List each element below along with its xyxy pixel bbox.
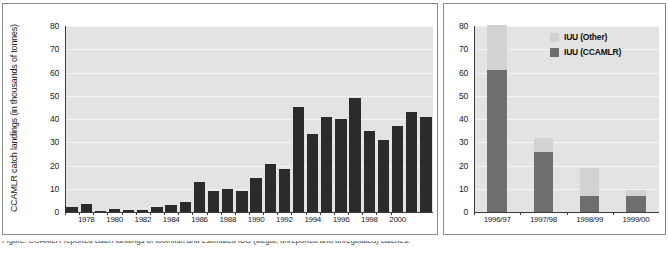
x-axis-tick-mark — [178, 212, 179, 215]
bar-segment-iuu-ccamlr — [580, 196, 599, 212]
gridline — [65, 26, 433, 27]
bar — [236, 191, 247, 212]
x-axis-tick-mark — [391, 212, 392, 215]
bar-segment-iuu-other — [487, 25, 506, 70]
y-axis-tick-label: 10 — [459, 184, 468, 194]
x-axis-tick-label: 1999/00 — [622, 215, 649, 224]
x-axis-tick-mark — [221, 212, 222, 215]
gridline — [65, 96, 433, 97]
bar-segment-iuu-other — [626, 190, 645, 196]
y-axis-tick-label: 20 — [459, 161, 468, 171]
x-axis-tick-label: 1996/97 — [484, 215, 511, 224]
y-axis-tick-label: 50 — [459, 91, 468, 101]
y-axis-line — [65, 26, 66, 212]
x-axis-tick-mark — [613, 212, 614, 215]
bar — [279, 169, 290, 212]
legend-item: IUU (Other) — [550, 32, 621, 42]
x-axis-tick-label: 1992 — [276, 215, 293, 224]
legend-swatch-icon — [550, 33, 559, 42]
y-axis-tick-label: 0 — [54, 207, 59, 217]
bar — [420, 117, 431, 212]
y-axis-tick-label: 20 — [50, 161, 59, 171]
x-axis-tick-label: 1996 — [333, 215, 350, 224]
y-axis-tick-label: 80 — [50, 21, 59, 31]
y-axis-tick-label: 50 — [50, 91, 59, 101]
x-axis-tick-label: 2000 — [389, 215, 406, 224]
bar — [165, 205, 176, 212]
bar — [81, 204, 92, 212]
gridline — [65, 119, 433, 120]
x-axis-tick-mark — [164, 212, 165, 215]
x-axis-tick-mark — [93, 212, 94, 215]
x-axis-tick-mark — [306, 212, 307, 215]
x-axis-tick-mark — [207, 212, 208, 215]
y-axis-tick-label: 60 — [459, 68, 468, 78]
bar — [406, 112, 417, 212]
bar-segment-iuu-other — [580, 168, 599, 196]
legend-item-label: IUU (Other) — [564, 32, 607, 42]
bar-segment-iuu-ccamlr — [626, 196, 645, 212]
left-chart-panel: CCAMLR catch landings (in thousands of t… — [2, 3, 438, 235]
x-axis-tick-mark — [65, 212, 66, 215]
x-axis-tick-label: 1988 — [219, 215, 236, 224]
x-axis-tick-mark — [192, 212, 193, 215]
bar — [293, 107, 304, 212]
x-axis-tick-mark — [136, 212, 137, 215]
y-axis-line — [474, 26, 475, 212]
x-axis-tick-mark — [291, 212, 292, 215]
x-axis-tick-label: 1998/99 — [576, 215, 603, 224]
stacked-bar — [580, 168, 599, 212]
y-axis-tick-label: 10 — [50, 184, 59, 194]
stacked-bar — [487, 25, 506, 212]
x-axis-tick-label: 1986 — [191, 215, 208, 224]
left-plot-area — [65, 26, 433, 212]
x-axis-tick-mark — [277, 212, 278, 215]
stacked-bar — [534, 138, 553, 212]
bar — [180, 202, 191, 212]
figure-caption-text: Figure: CCAMLR reported catch landings o… — [2, 241, 666, 245]
x-axis-tick-label: 1998 — [361, 215, 378, 224]
bar — [321, 117, 332, 212]
bar-segment-iuu-ccamlr — [534, 152, 553, 212]
figure-caption: Figure: CCAMLR reported catch landings o… — [2, 241, 666, 256]
y-axis-tick-label: 70 — [459, 44, 468, 54]
right-chart-panel: 01020304050607080 1996/971997/981998/991… — [443, 3, 666, 235]
x-axis-tick-mark — [79, 212, 80, 215]
bar — [250, 178, 261, 212]
x-axis-tick-mark — [249, 212, 250, 215]
x-axis-tick-label: 1982 — [135, 215, 152, 224]
x-axis-tick-label: 1978 — [78, 215, 95, 224]
figure-container: CCAMLR catch landings (in thousands of t… — [0, 0, 668, 256]
x-axis-tick-mark — [334, 212, 335, 215]
x-axis-tick-label: 1984 — [163, 215, 180, 224]
bar — [265, 164, 276, 212]
bar — [208, 191, 219, 212]
x-axis-tick-mark — [376, 212, 377, 215]
stacked-bar — [626, 190, 645, 212]
y-axis-tick-label: 0 — [463, 207, 468, 217]
gridline — [65, 73, 433, 74]
bar-segment-iuu-ccamlr — [487, 70, 506, 212]
bar — [378, 140, 389, 212]
x-axis-tick-mark — [263, 212, 264, 215]
y-axis-tick-label: 30 — [459, 137, 468, 147]
y-axis-tick-label: 40 — [459, 114, 468, 124]
x-axis-tick-mark — [348, 212, 349, 215]
x-axis-tick-mark — [235, 212, 236, 215]
x-axis-tick-label: 1994 — [304, 215, 321, 224]
bar-segment-iuu-other — [534, 138, 553, 152]
x-axis-tick-mark — [520, 212, 521, 215]
bar — [335, 119, 346, 212]
y-axis-tick-label: 80 — [459, 21, 468, 31]
bar — [349, 98, 360, 212]
y-axis-tick-label: 60 — [50, 68, 59, 78]
x-axis-tick-mark — [474, 212, 475, 215]
x-axis-tick-mark — [362, 212, 363, 215]
bar — [222, 189, 233, 212]
x-axis-tick-mark — [567, 212, 568, 215]
x-axis-tick-mark — [150, 212, 151, 215]
x-axis-tick-mark — [122, 212, 123, 215]
y-axis-tick-label: 70 — [50, 44, 59, 54]
bar — [364, 131, 375, 212]
chart-legend: IUU (Other)IUU (CCAMLR) — [550, 32, 621, 62]
